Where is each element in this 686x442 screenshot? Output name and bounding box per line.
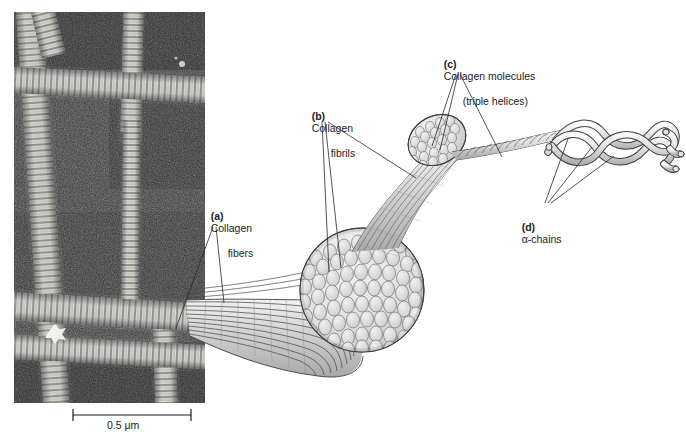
label-b-marker: (b) <box>312 110 325 122</box>
label-d-marker: (d) <box>522 221 535 233</box>
label-c-line1: Collagen molecules <box>444 70 536 82</box>
label-c-marker: (c) <box>444 58 457 70</box>
collagen-illustration <box>0 0 686 442</box>
label-a-marker: (a) <box>211 210 224 222</box>
label-b-line1: Collagen <box>312 122 353 134</box>
label-d-line1: α-chains <box>522 233 562 245</box>
label-b-line2: fibrils <box>312 147 356 160</box>
figure-canvas: 0.5 μm <box>0 0 686 442</box>
label-d: (d) α-chains <box>510 208 562 258</box>
label-c: (c) Collagen molecules (triple helices) <box>432 45 535 120</box>
label-a-line2: fibers <box>211 247 254 260</box>
alpha-chain-helices <box>546 123 684 171</box>
label-a: (a) Collagen fibers <box>199 197 253 272</box>
label-a-line1: Collagen <box>211 222 252 234</box>
label-b: (b) Collagen fibrils <box>300 97 355 172</box>
label-c-line2: (triple helices) <box>444 95 528 108</box>
